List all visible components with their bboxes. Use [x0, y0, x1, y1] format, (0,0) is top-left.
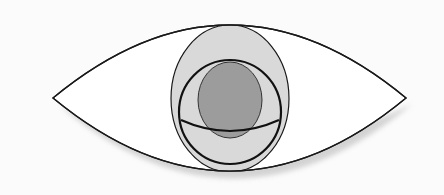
inner-ellipse — [198, 62, 262, 138]
eye-diagram-svg — [0, 0, 444, 195]
eye-diagram — [0, 0, 444, 195]
